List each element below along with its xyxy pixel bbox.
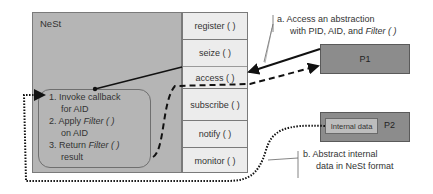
callout-a-leader-2 [265,28,272,63]
solid-line-access-to-callback [95,67,182,89]
dotted-arrow-internal-to-callback [24,95,325,181]
callback-dot-icon [93,87,97,91]
callout-b-leader [268,158,298,160]
dashed-arrow-result-to-p1 [153,66,318,157]
connector-lines [0,0,433,194]
